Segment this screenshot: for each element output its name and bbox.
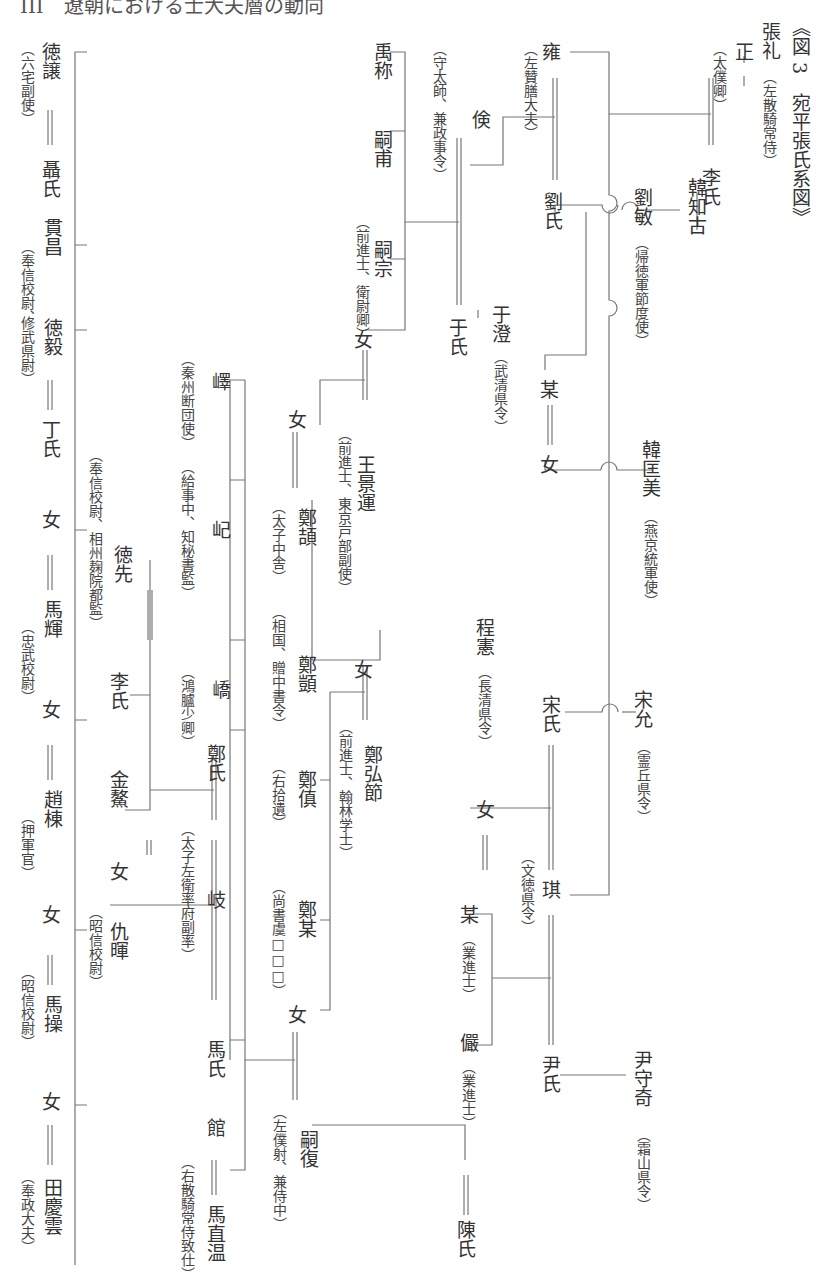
person-song-shi: 宋氏 — [540, 695, 559, 733]
person-nu-10: 女 — [40, 905, 59, 924]
person-guan-chang: 貫昌 — [42, 218, 61, 256]
person-guan: 館 — [205, 1118, 224, 1137]
person-si-fu: 嗣甫 — [372, 130, 391, 168]
title-de-rang: （六宅副使） — [20, 42, 34, 126]
person-zheng-xu: 鄭顗 — [296, 655, 315, 693]
title-yi: （秦州断団使） — [180, 352, 194, 450]
person-nu-4: 女 — [352, 660, 371, 679]
person-yin-shi: 尹氏 — [540, 1055, 559, 1093]
person-yu-cheng: 于澄 — [490, 305, 509, 343]
figure-title: 《図 3 宛平張氏系図》 — [790, 18, 809, 226]
title-jian: （守太師、兼政事令） — [432, 42, 446, 182]
person-nu-7: 女 — [108, 862, 127, 881]
person-zheng-mou: 鄭某 — [296, 900, 315, 938]
person-de-xian: 徳先 — [112, 545, 131, 583]
person-zheng-shi: 鄭氏 — [205, 744, 224, 782]
title-si-zong: （前進士、衛尉卿） — [355, 215, 369, 341]
person-ma-zhiwen: 馬直温 — [205, 1205, 224, 1262]
person-li-shi-2: 李氏 — [108, 672, 127, 710]
person-han-zhigu: 韓知古 — [686, 178, 705, 235]
person-mou-2: 某 — [458, 905, 477, 924]
person-zheng-hong: 鄭頡 — [296, 508, 315, 546]
person-nie-shi: 聶氏 — [40, 160, 59, 198]
title-si-fu2: （左僕射、兼侍中） — [272, 1105, 286, 1231]
person-song-yun: 宋允 — [632, 690, 651, 728]
title-chou-hui: （昭信校尉） — [88, 905, 102, 989]
person-chen-shi: 陳氏 — [455, 1220, 474, 1258]
title-yong: （左贊膳大夫） — [523, 42, 537, 140]
person-zheng-zhen: 鄭傎 — [296, 770, 315, 808]
title-yu-cheng: （武清県令） — [493, 350, 507, 434]
title-qi2: （太子左衛率府副率） — [180, 822, 194, 962]
title-ji: （給事中、知秘書監） — [180, 460, 194, 600]
title-ma-cao: （昭信校尉） — [20, 965, 34, 1049]
person-nu-2: 女 — [352, 330, 371, 349]
person-nu-5: 女 — [286, 1005, 305, 1024]
title-cheng-xian: （長清県令） — [477, 665, 491, 749]
person-nu-3: 女 — [286, 410, 305, 429]
person-yu-cheng2: 禹称 — [372, 42, 391, 80]
person-si-fu2: 嗣復 — [298, 1130, 317, 1168]
title-zhang-li: （左散騎常侍） — [762, 70, 776, 168]
title-yin-shouqi: （霜山県令） — [636, 1128, 650, 1212]
title-zheng-hongjie: （前進士、翰林学士） — [338, 720, 352, 860]
person-cheng-xian: 程憲 — [474, 618, 493, 656]
person-nu-9: 女 — [40, 700, 59, 719]
title-zheng: （太僕卿） — [712, 42, 726, 112]
person-liu-min: 劉敏 — [632, 188, 651, 226]
person-zheng-hongjie: 鄭弘節 — [362, 745, 381, 802]
title-liu-min: （帰徳軍節度使） — [634, 236, 648, 348]
title-yan: （業進士） — [461, 1060, 475, 1130]
title-wang-jingyun: （前進士、東京戸部副使） — [337, 427, 351, 595]
person-yi: 嶧 — [210, 372, 229, 391]
person-yong: 雍 — [540, 42, 559, 61]
person-de-yi: 徳毅 — [42, 318, 61, 356]
person-mou-1: 某 — [538, 380, 557, 399]
person-ma-shi: 馬氏 — [205, 1040, 224, 1078]
person-nu-11: 女 — [40, 1092, 59, 1111]
title-ma-zhiwen: （右散騎常侍致仕） — [180, 1155, 194, 1281]
title-de-xian: （奉信校尉、相州麹院都監） — [88, 448, 102, 630]
person-chou-hui: 仇暉 — [108, 922, 127, 960]
person-de-rang: 徳譲 — [40, 42, 59, 80]
title-zheng-mou: （尚書虞□□□） — [271, 880, 285, 998]
person-ji: 屺 — [210, 520, 229, 539]
person-qiao: 嶠 — [210, 680, 229, 699]
person-liu-shi: 劉氏 — [542, 192, 561, 230]
person-qi2: 岐 — [205, 890, 224, 909]
title-de-yi: 修武県尉） — [20, 316, 34, 386]
person-jian: 倹 — [470, 110, 489, 129]
title-qiao: （鴻臚少卿） — [180, 665, 194, 749]
person-nu-8: 女 — [40, 510, 59, 529]
person-wang-jingyun: 王景運 — [355, 455, 374, 512]
title-tian-qingyun: （奉政大夫） — [20, 1170, 34, 1254]
title-zheng-xu: （相国、贈中書令） — [271, 605, 285, 731]
title-zheng-zhen: （右拾遺） — [271, 760, 285, 830]
title-song-yun: （霊丘県令） — [636, 740, 650, 824]
person-han-kuangmei: 韓匡美 — [640, 440, 659, 497]
person-ma-cao: 馬操 — [42, 995, 61, 1033]
person-nu-6: 女 — [474, 800, 493, 819]
title-mou-2: （業進士） — [461, 932, 475, 1002]
person-zhang-li: 張礼 — [760, 22, 779, 60]
person-qi: 琪 — [540, 880, 559, 899]
title-zheng-hong: （太子中舎） — [271, 500, 285, 584]
person-zhao-dong: 趙棟 — [42, 790, 61, 828]
person-si-zong: 嗣宗 — [372, 240, 391, 278]
title-guan-chang: （奉信校尉、 — [20, 240, 34, 324]
person-ma-hui: 馬輝 — [42, 600, 61, 638]
title-qi: （文徳県令） — [520, 850, 534, 934]
title-han-kuangmei: （燕京統軍使） — [643, 510, 657, 608]
person-yin-shouqi: 尹守奇 — [632, 1050, 651, 1107]
person-tian-qingyun: 田慶雲 — [42, 1178, 61, 1235]
person-zheng: 正 — [733, 42, 752, 61]
title-zhao-dong: （押軍官） — [20, 810, 34, 880]
person-jin-ao: 金鰲 — [108, 770, 127, 808]
person-nu-1: 女 — [538, 455, 557, 474]
person-ding-shi: 丁氏 — [40, 420, 59, 458]
person-yan: 儼 — [458, 1033, 477, 1052]
person-yu-shi: 于氏 — [447, 318, 466, 356]
title-ma-hui: （忠武校尉） — [20, 620, 34, 704]
